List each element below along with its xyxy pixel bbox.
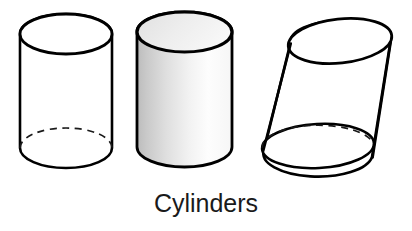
cylinder-2-top-ellipse [137,12,232,52]
cylinder-2-upright-shaded [137,12,232,167]
cylinder-3-oblique-outline [261,14,394,177]
figure-caption: Cylinders [0,188,412,218]
cylinders-figure: Cylinders [0,0,412,231]
cylinder-1-upright-outline [20,14,112,168]
cylinder-1-top-ellipse [20,14,112,54]
